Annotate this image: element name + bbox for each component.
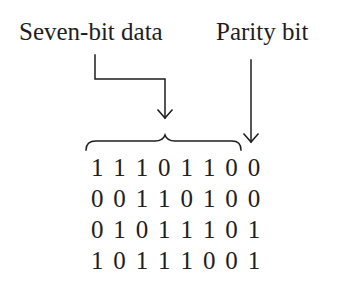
bit: 0 [108, 248, 130, 273]
bit: 0 [131, 217, 153, 242]
bit: 1 [153, 248, 175, 273]
bit: 1 [131, 186, 153, 211]
parity-bit: 0 [243, 155, 265, 180]
bit: 1 [108, 155, 130, 180]
bit: 1 [108, 217, 130, 242]
bit: 0 [86, 186, 108, 211]
bit: 0 [220, 217, 242, 242]
bit: 1 [176, 155, 198, 180]
data-connector-line [95, 55, 165, 118]
parity-bit: 1 [243, 217, 265, 242]
bit: 1 [153, 186, 175, 211]
bit: 1 [153, 217, 175, 242]
parity-bit: 0 [243, 186, 265, 211]
bit: 1 [198, 186, 220, 211]
bit-row-1: 1 1 1 0 1 1 0 0 [86, 152, 265, 183]
data-bits-brace [86, 135, 241, 150]
bit: 0 [220, 248, 242, 273]
bit-row-4: 1 0 1 1 1 0 0 1 [86, 245, 265, 276]
bit: 0 [220, 186, 242, 211]
bit: 1 [131, 155, 153, 180]
bit: 0 [176, 186, 198, 211]
bit: 1 [198, 155, 220, 180]
parity-bit: 1 [243, 248, 265, 273]
bit-row-2: 0 0 1 1 0 1 0 0 [86, 183, 265, 214]
bit: 0 [108, 186, 130, 211]
bit: 1 [86, 155, 108, 180]
bit: 1 [86, 248, 108, 273]
bit: 0 [198, 248, 220, 273]
bit: 0 [220, 155, 242, 180]
bit: 1 [176, 248, 198, 273]
bit-row-3: 0 1 0 1 1 1 0 1 [86, 214, 265, 245]
bit-table: 1 1 1 0 1 1 0 0 0 0 1 1 0 1 0 0 0 1 0 1 … [86, 152, 265, 276]
bit: 1 [176, 217, 198, 242]
bit: 1 [131, 248, 153, 273]
bit: 0 [86, 217, 108, 242]
bit: 1 [198, 217, 220, 242]
bit: 0 [153, 155, 175, 180]
